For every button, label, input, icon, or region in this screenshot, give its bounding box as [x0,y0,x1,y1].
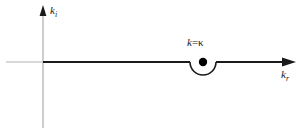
real-axis-label-subscript: r [286,74,289,83]
pole-marker-icon [199,58,207,66]
pole-annotation-value: κ [198,36,204,48]
real-axis-arrowhead [282,58,296,67]
imaginary-axis-arrowhead [40,5,47,16]
real-axis-label: kr [281,69,289,83]
pole-annotation-label: k=κ [187,37,204,48]
complex-plane-contour-figure: ki kr k=κ [0,0,306,128]
contour-diagram-canvas [0,0,306,128]
imaginary-axis-label: ki [50,5,57,19]
imaginary-axis-label-subscript: i [55,10,57,19]
